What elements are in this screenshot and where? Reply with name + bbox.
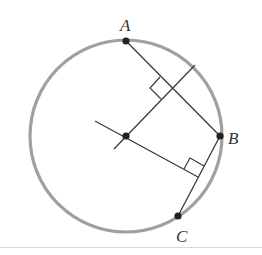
perpendicular-bisector-bc: [95, 121, 198, 177]
point-a: [122, 37, 129, 44]
center-point: [122, 132, 129, 139]
right-angle-mark-bc: [184, 158, 204, 169]
right-angle-mark-ab: [150, 77, 161, 99]
bottom-divider: [0, 247, 262, 248]
label-c: C: [176, 227, 188, 246]
circle-chord-bisector-diagram: A B C: [0, 0, 262, 255]
point-b: [216, 132, 223, 139]
point-c: [174, 212, 181, 219]
label-a: A: [119, 16, 131, 35]
label-b: B: [228, 129, 239, 148]
